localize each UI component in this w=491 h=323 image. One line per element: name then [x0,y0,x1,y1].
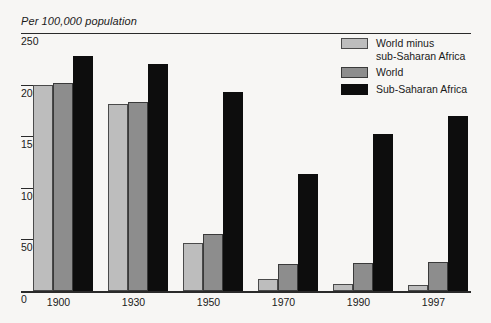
bar [278,264,298,291]
legend-label: Sub-Saharan Africa [376,83,467,96]
bar [128,102,148,291]
bar [298,174,318,291]
gridline-0 [21,291,471,293]
bar [183,243,203,292]
bar [148,64,168,291]
legend-item[interactable]: World [341,66,467,79]
bar [448,116,468,291]
chart-title: Per 100,000 population [21,15,137,27]
bar [373,134,393,291]
x-tick-label-1990: 1990 [321,296,396,308]
x-tick-label-1900: 1900 [21,296,96,308]
x-tick-label-1950: 1950 [171,296,246,308]
bar [333,284,353,291]
bar [203,234,223,291]
bar [53,83,73,291]
legend-swatch-icon [341,67,368,78]
legend-label: World minus sub-Saharan Africa [376,37,465,62]
legend-item[interactable]: Sub-Saharan Africa [341,83,467,96]
bar [33,85,53,291]
x-tick-label-1930: 1930 [96,296,171,308]
legend-swatch-icon [341,84,368,95]
chart-legend: World minus sub-Saharan AfricaWorldSub-S… [341,37,467,99]
bar [428,262,448,291]
bar [108,104,128,291]
legend-swatch-icon [341,38,368,49]
legend-label: World [376,66,403,79]
x-tick-label-1970: 1970 [246,296,321,308]
legend-item[interactable]: World minus sub-Saharan Africa [341,37,467,62]
chart-figure: Per 100,000 population 250200150100500 1… [0,0,491,323]
bar [223,92,243,291]
bar [408,285,428,291]
bar [73,56,93,291]
x-tick-label-1997: 1997 [396,296,471,308]
bar [258,279,278,291]
bar [353,263,373,291]
